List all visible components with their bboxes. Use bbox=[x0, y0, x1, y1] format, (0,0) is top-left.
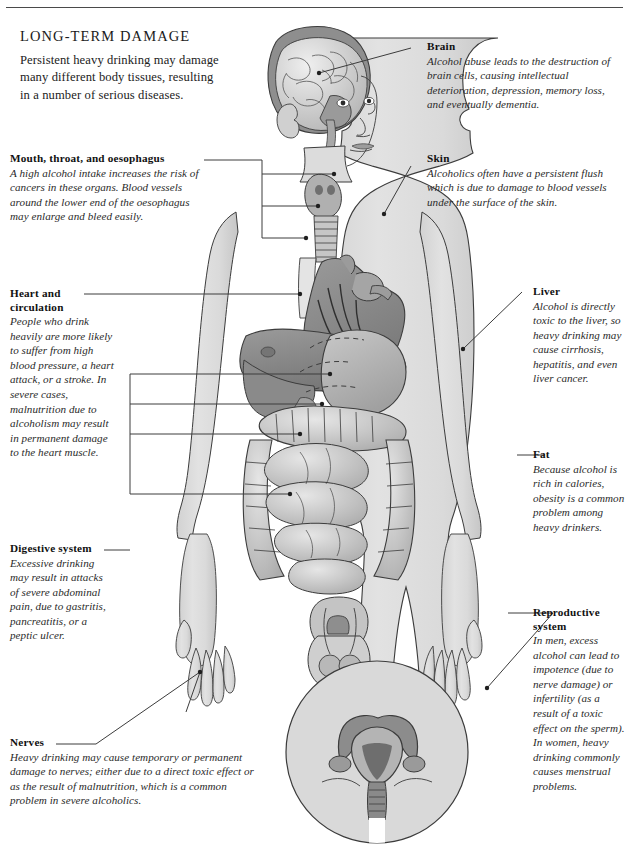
callout-reproductive-system-title: Reproductive system bbox=[533, 606, 627, 633]
prostate bbox=[327, 616, 349, 634]
callout-fat-title: Fat bbox=[533, 448, 625, 462]
callout-skin[interactable]: Skin Alcoholics often have a persistent … bbox=[427, 152, 623, 209]
left-hand bbox=[176, 534, 235, 706]
callout-digestive-system-title: Digestive system bbox=[10, 542, 114, 556]
callout-skin-body: Alcoholics often have a persistent flush… bbox=[427, 166, 623, 210]
ear bbox=[277, 104, 299, 138]
page-header: LONG-TERM DAMAGE Persistent heavy drinki… bbox=[20, 28, 225, 104]
callout-skin-title: Skin bbox=[427, 152, 623, 166]
callout-brain-body: Alcohol abuse leads to the destruction o… bbox=[427, 54, 623, 112]
callout-nerves-body: Heavy drinking may cause temporary or pe… bbox=[10, 750, 260, 808]
cervix-and-vagina bbox=[368, 782, 387, 820]
callout-mouth-throat-oesophagus-title: Mouth, throat, and oesophagus bbox=[10, 152, 210, 166]
illustration-page: LONG-TERM DAMAGE Persistent heavy drinki… bbox=[0, 0, 629, 845]
callout-digestive-system-body: Excessive drinking may result in attacks… bbox=[10, 556, 114, 644]
callout-fat-body: Because alcohol is rich in calories, obe… bbox=[533, 462, 625, 535]
page-title: LONG-TERM DAMAGE bbox=[20, 28, 225, 45]
reproductive-inset bbox=[286, 661, 468, 845]
trachea bbox=[314, 216, 338, 262]
callout-mouth-throat-oesophagus-body: A high alcohol intake increases the risk… bbox=[10, 166, 210, 224]
callout-liver-title: Liver bbox=[533, 285, 625, 299]
ovary-left bbox=[329, 756, 351, 772]
callout-heart-and-circulation-title: Heart and circulation bbox=[10, 287, 114, 314]
callout-mouth-throat-oesophagus[interactable]: Mouth, throat, and oesophagus A high alc… bbox=[10, 152, 210, 224]
callout-nerves-title: Nerves bbox=[10, 736, 260, 750]
callout-liver-body: Alcohol is directly toxic to the liver, … bbox=[533, 299, 625, 387]
callout-heart-and-circulation-body: People who drink heavily are more likely… bbox=[10, 314, 114, 460]
callout-digestive-system[interactable]: Digestive system Excessive drinking may … bbox=[10, 542, 114, 643]
callout-fat[interactable]: Fat Because alcohol is rich in calories,… bbox=[533, 448, 625, 534]
page-intro: Persistent heavy drinking may damage man… bbox=[20, 52, 225, 104]
callout-heart-and-circulation[interactable]: Heart and circulation People who drink h… bbox=[10, 287, 114, 460]
callout-reproductive-system[interactable]: Reproductive system In men, excess alcoh… bbox=[533, 606, 627, 794]
callout-liver[interactable]: Liver Alcohol is directly toxic to the l… bbox=[533, 285, 625, 386]
callout-brain[interactable]: Brain Alcohol abuse leads to the destruc… bbox=[427, 40, 623, 112]
ovary-right bbox=[403, 756, 425, 772]
callout-nerves[interactable]: Nerves Heavy drinking may cause temporar… bbox=[10, 736, 260, 808]
callout-reproductive-system-body: In men, excess alcohol can lead to impot… bbox=[533, 633, 627, 794]
callout-brain-title: Brain bbox=[427, 40, 623, 54]
